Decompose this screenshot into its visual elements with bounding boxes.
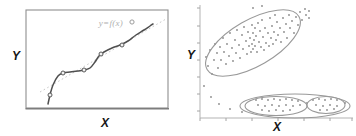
scatter-point: [259, 30, 261, 32]
curve-marker: [82, 68, 86, 72]
scatter-point: [262, 36, 264, 38]
right-plot-drawing: [196, 0, 353, 121]
curve-marker: [120, 43, 124, 47]
scatter-point: [299, 104, 301, 106]
scatter-point: [268, 110, 270, 112]
scatter-point: [336, 99, 338, 101]
scatter-point: [252, 48, 254, 50]
scatter-point: [271, 25, 273, 27]
scatter-point: [239, 57, 241, 59]
left-plot-drawing: [26, 10, 170, 109]
scatter-point: [295, 16, 297, 18]
scatter-point: [255, 35, 257, 37]
scatter-point: [318, 98, 320, 100]
scatter-point: [273, 31, 275, 33]
scatter-point: [308, 17, 310, 19]
lower-right-subcluster-ellipse: [307, 97, 345, 114]
scatter-point: [270, 37, 272, 39]
scatter-point: [315, 104, 317, 106]
scatter-point: [242, 48, 244, 50]
scatter-point: [285, 104, 287, 106]
figure-canvas: y=f(x) Y X Y X: [0, 0, 356, 136]
scatter-point: [291, 20, 293, 22]
scatter-point: [251, 43, 253, 45]
scatter-point: [231, 47, 233, 49]
scatter-point: [276, 21, 278, 23]
scatter-point: [216, 52, 218, 54]
scatter-point: [282, 110, 284, 112]
scatter-point: [297, 100, 299, 102]
scatter-point: [249, 37, 251, 39]
scatter-point: [267, 32, 269, 34]
scatter-point: [301, 19, 303, 21]
scatter-point: [297, 24, 299, 26]
scatter-point: [210, 96, 212, 98]
right-y-axis-label: Y: [187, 48, 196, 62]
lower-left-subcluster-ellipse: [245, 97, 307, 116]
scatter-point: [232, 60, 234, 62]
right-scatter-plot: Y X: [187, 0, 353, 134]
scatter-point: [275, 39, 277, 41]
scatter-point: [235, 52, 237, 54]
scatter-point: [260, 46, 262, 48]
scatter-point: [234, 39, 236, 41]
scatter-point: [263, 49, 265, 51]
scatter-point: [238, 44, 240, 46]
outlier-point: [130, 20, 134, 24]
function-annotation: y=f(x): [98, 18, 123, 28]
scatter-point: [252, 7, 254, 9]
scatter-point: [319, 109, 321, 111]
scatter-point: [272, 43, 274, 45]
scatter-point: [250, 51, 252, 53]
scatter-point: [289, 109, 291, 111]
scatter-point: [258, 41, 260, 43]
right-x-axis-label: X: [272, 120, 282, 134]
scatter-point: [336, 105, 338, 107]
scatter-point: [248, 45, 250, 47]
scatter-point: [267, 99, 269, 101]
scatter-point: [217, 67, 219, 69]
scatter-point: [245, 40, 247, 42]
scatter-point: [274, 14, 276, 16]
scatter-point: [252, 32, 254, 34]
scatter-point: [246, 53, 248, 55]
scatter-point: [220, 59, 222, 61]
scatter-point: [229, 32, 231, 34]
scatter-point: [278, 105, 280, 107]
scatter-point: [256, 51, 258, 53]
left-x-axis-label: X: [100, 116, 110, 130]
scatter-point: [253, 39, 255, 41]
scatter-point: [264, 27, 266, 29]
scatter-point: [257, 104, 259, 106]
scatter-point: [254, 27, 256, 29]
statistics-figure: y=f(x) Y X Y X: [0, 0, 356, 136]
curve-marker: [61, 71, 65, 75]
scatter-point: [228, 55, 230, 57]
scatter-point: [279, 99, 281, 101]
scatter-point: [285, 23, 287, 25]
scatter-point: [286, 37, 288, 39]
curve-marker: [99, 52, 103, 56]
regression-curve: [48, 24, 153, 104]
scatter-point: [308, 10, 310, 12]
scatter-point: [333, 108, 335, 110]
scatter-point: [241, 111, 243, 113]
curve-marker: [48, 93, 52, 97]
scatter-point: [299, 11, 301, 13]
scatter-point: [243, 26, 245, 28]
scatter-point: [324, 99, 326, 101]
scatter-point: [213, 59, 215, 61]
scatter-point: [247, 31, 249, 33]
scatter-point: [251, 24, 253, 26]
scatter-point: [282, 17, 284, 19]
scatter-point: [257, 22, 259, 24]
scatter-point: [218, 103, 220, 105]
scatter-point: [275, 109, 277, 111]
scatter-point: [225, 63, 227, 65]
scatter-point: [229, 108, 231, 110]
scatter-point: [261, 19, 263, 21]
scatter-point: [292, 105, 294, 107]
scatter-point: [330, 98, 332, 100]
scatter-point: [203, 85, 205, 87]
scatter-point: [329, 104, 331, 106]
